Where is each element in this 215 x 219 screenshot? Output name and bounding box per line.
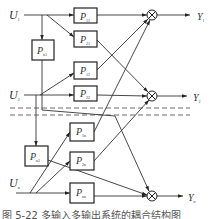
figure-caption: 图 5-22 多输入多输出系统的耦合结构图	[2, 208, 215, 219]
p21-to-sum2-line	[97, 40, 148, 92]
u2-to-p12-line	[40, 73, 74, 95]
pn2-to-sumn-line	[48, 160, 147, 195]
input-label-u2: U2	[9, 88, 20, 102]
p22-to-sum2-line	[97, 95, 147, 96]
u1-to-p21-line	[47, 15, 74, 37]
input-label-u1: U1	[9, 8, 20, 22]
p12-to-sum1-line	[97, 19, 148, 70]
input-label-un: Un	[9, 176, 20, 190]
ellipsis-dashed-lines	[10, 108, 190, 115]
sum-1-icon	[147, 10, 157, 20]
mimo-block-diagram: U1 U2 Un Y1 Y2 Yn P11 P21 Pn1 P12 P22 P1…	[0, 0, 215, 219]
sum-2-icon	[147, 91, 157, 101]
sum-n-icon	[147, 191, 157, 201]
output-label-yn: Yn	[188, 192, 196, 204]
output-label-y2: Y2	[193, 92, 201, 104]
block-pn2	[25, 146, 48, 166]
output-label-y1: Y1	[197, 11, 205, 23]
